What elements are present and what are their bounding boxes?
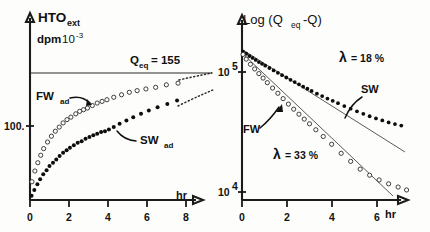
data-point xyxy=(112,125,116,129)
data-point xyxy=(74,112,78,116)
data-point xyxy=(41,172,45,176)
data-point xyxy=(320,94,324,98)
data-point xyxy=(280,73,284,77)
right-x-tick-label-2: 2 xyxy=(284,211,290,223)
data-point xyxy=(156,105,160,109)
sw-ad-leader-line xyxy=(117,131,136,141)
fw-leader-line xyxy=(260,107,279,128)
data-point xyxy=(272,69,276,73)
data-point xyxy=(292,107,296,111)
fw-label: FW xyxy=(243,123,261,135)
data-point xyxy=(284,76,288,80)
data-point xyxy=(139,112,143,116)
left-x-tick-label-0: 0 xyxy=(27,211,33,223)
data-point xyxy=(107,128,111,132)
data-point xyxy=(263,64,267,68)
fw-ad-label-main: FW xyxy=(36,90,54,102)
data-point xyxy=(61,121,65,125)
right-y-tick-exponent-1e5: 5 xyxy=(232,60,238,72)
data-point xyxy=(54,157,58,161)
data-point xyxy=(105,98,109,102)
left-y-axis-title: HTO xyxy=(38,10,66,25)
data-point xyxy=(248,62,252,66)
data-point xyxy=(315,92,319,96)
lambda-symbol-sw: λ xyxy=(339,49,347,65)
equilibrium-label-subscript: eq xyxy=(139,61,148,70)
data-point xyxy=(42,147,46,151)
data-point xyxy=(91,133,95,137)
data-point xyxy=(65,118,69,122)
data-point xyxy=(314,128,318,132)
sw-extrapolation-dotted xyxy=(178,90,213,106)
sw-ad-label-main: SW xyxy=(140,134,159,146)
data-point xyxy=(253,67,257,71)
data-point xyxy=(154,85,158,89)
right-panel-log-decay-chart: Log (Q eq -Q) 10 5 10 4 0 2 4 xyxy=(215,0,430,232)
data-point xyxy=(289,78,293,82)
data-point xyxy=(119,93,123,97)
data-point xyxy=(355,109,359,113)
data-point xyxy=(95,101,99,105)
data-point xyxy=(268,66,272,70)
data-point xyxy=(380,119,384,123)
data-point xyxy=(301,85,305,89)
data-point xyxy=(306,87,310,91)
data-point xyxy=(100,99,104,103)
data-point xyxy=(331,99,335,103)
sw-label: SW xyxy=(361,83,379,95)
left-y-tick-label-100: 100. xyxy=(4,120,25,132)
data-point xyxy=(387,121,391,125)
data-point xyxy=(241,52,245,56)
right-y-tick-mantissa-1e4: 10 xyxy=(218,186,230,198)
fw-leader-arrowhead xyxy=(276,104,283,112)
data-point xyxy=(124,118,128,122)
data-point xyxy=(368,114,372,118)
equilibrium-label-value: = 155 xyxy=(151,54,181,66)
right-y-tick-mantissa-1e5: 10 xyxy=(218,66,230,78)
data-point xyxy=(131,115,135,119)
data-point xyxy=(336,101,340,105)
data-point xyxy=(254,58,258,62)
fw-extrapolation-dotted xyxy=(179,73,212,80)
data-point xyxy=(39,153,43,157)
data-point xyxy=(286,102,290,106)
right-x-tick-label-4: 4 xyxy=(329,211,335,223)
data-point xyxy=(310,89,314,93)
data-point xyxy=(38,177,42,181)
lambda-symbol-fw: λ xyxy=(273,146,281,162)
data-point xyxy=(164,83,168,87)
data-point xyxy=(387,182,391,186)
data-point xyxy=(342,104,346,108)
data-point xyxy=(257,71,261,75)
equilibrium-label-main: Q xyxy=(130,54,139,66)
data-point xyxy=(49,134,53,138)
data-point xyxy=(377,178,381,182)
data-point xyxy=(261,76,265,80)
fw-ad-leader-arrowhead xyxy=(86,99,92,106)
data-point xyxy=(393,122,397,126)
data-point xyxy=(45,140,49,144)
data-point xyxy=(84,137,88,141)
data-point xyxy=(65,148,69,152)
data-point xyxy=(85,106,89,110)
data-point xyxy=(339,151,343,155)
data-point xyxy=(87,135,91,139)
data-point xyxy=(76,141,80,145)
right-x-tick-label-6: 6 xyxy=(374,211,380,223)
lambda-value-sw: = 18 % xyxy=(351,52,385,64)
left-x-tick-label-8: 8 xyxy=(183,211,189,223)
data-point xyxy=(144,87,148,91)
data-point xyxy=(61,151,65,155)
right-panel-svg: Log (Q eq -Q) 10 5 10 4 0 2 4 xyxy=(215,0,430,232)
data-point xyxy=(244,57,248,61)
left-y-units-exponent: -3 xyxy=(76,31,84,40)
data-point xyxy=(30,180,34,184)
data-point xyxy=(30,194,34,198)
data-point xyxy=(165,102,169,106)
data-point xyxy=(176,81,180,85)
data-point xyxy=(33,169,37,173)
right-y-axis-title: Log (Q xyxy=(243,12,283,27)
data-point xyxy=(112,95,116,99)
data-point xyxy=(404,188,408,192)
data-point xyxy=(307,122,311,126)
